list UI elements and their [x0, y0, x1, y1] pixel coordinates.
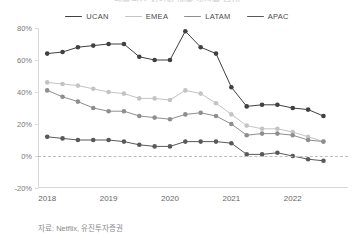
y-tick-mark: [35, 92, 38, 93]
x-axis-label: 2018: [38, 194, 56, 203]
series-line-ucan: [47, 31, 323, 116]
data-point: [275, 151, 280, 156]
data-point: [76, 45, 81, 50]
data-point: [152, 115, 157, 120]
data-point: [106, 109, 111, 114]
netflix-regional-growth-chart: 넷플릭스 지역별 매출 성장률 추이 UCANEMEALATAMAPAC 80%…: [0, 0, 354, 246]
data-point: [229, 112, 234, 117]
data-point: [214, 139, 219, 144]
legend-item-apac[interactable]: APAC: [247, 12, 289, 21]
data-point: [214, 101, 219, 106]
source-note: 자료: Netflix, 유진투자증권: [38, 222, 123, 233]
data-point: [122, 91, 127, 96]
plot-area: 80%60%40%20%0%-20%20182019202020212022: [38, 28, 348, 188]
y-tick-mark: [35, 188, 38, 189]
data-point: [137, 143, 142, 148]
data-point: [321, 114, 326, 119]
legend-item-latam[interactable]: LATAM: [184, 12, 230, 21]
data-point: [152, 144, 157, 149]
data-point: [244, 123, 249, 128]
data-point: [183, 88, 188, 93]
data-point: [260, 103, 265, 108]
data-point: [106, 90, 111, 95]
data-point: [198, 111, 203, 116]
data-point: [198, 91, 203, 96]
data-point: [290, 133, 295, 138]
series-latam: [45, 88, 326, 144]
x-axis-label: 2019: [100, 194, 118, 203]
data-point: [183, 29, 188, 34]
data-point: [275, 131, 280, 136]
data-point: [168, 98, 173, 103]
legend-item-ucan[interactable]: UCAN: [65, 12, 108, 21]
y-axis-label: -20%: [14, 184, 32, 193]
data-point: [91, 87, 96, 92]
data-point: [137, 96, 142, 101]
y-axis-label: 0%: [21, 152, 32, 161]
data-point: [183, 112, 188, 117]
data-point: [290, 106, 295, 111]
data-point: [229, 122, 234, 127]
chart-title: 넷플릭스 지역별 매출 성장률 추이: [0, 0, 354, 2]
data-point: [198, 139, 203, 144]
data-point: [91, 106, 96, 111]
data-point: [45, 88, 50, 93]
data-point: [137, 114, 142, 119]
data-point: [137, 55, 142, 60]
legend-swatch-apac: [247, 16, 264, 18]
data-point: [306, 157, 311, 162]
x-axis-label: 2022: [284, 194, 302, 203]
data-point: [45, 51, 50, 56]
data-point: [244, 133, 249, 138]
x-axis-label: 2020: [161, 194, 179, 203]
data-point: [76, 138, 81, 143]
data-point: [106, 138, 111, 143]
data-point: [168, 117, 173, 122]
y-axis-label: 80%: [17, 24, 32, 33]
data-point: [45, 135, 50, 140]
data-point: [244, 104, 249, 109]
data-point: [122, 42, 127, 47]
data-point: [306, 138, 311, 143]
data-point: [229, 141, 234, 146]
data-point: [198, 45, 203, 50]
legend-swatch-ucan: [65, 16, 82, 18]
series-apac: [45, 135, 326, 164]
data-point: [60, 136, 65, 141]
data-point: [214, 114, 219, 119]
data-point: [106, 42, 111, 47]
data-point: [60, 82, 65, 87]
data-point: [183, 139, 188, 144]
data-point: [122, 139, 127, 144]
y-tick-mark: [35, 60, 38, 61]
legend-swatch-latam: [184, 16, 201, 18]
data-point: [306, 107, 311, 112]
data-point: [122, 109, 127, 114]
data-point: [321, 159, 326, 164]
data-point: [168, 144, 173, 149]
data-point: [91, 43, 96, 48]
data-point: [45, 80, 50, 85]
data-point: [60, 95, 65, 100]
data-point: [168, 58, 173, 63]
legend-item-emea[interactable]: EMEA: [125, 12, 168, 21]
y-tick-mark: [35, 28, 38, 29]
data-point: [91, 138, 96, 143]
legend-label-ucan: UCAN: [86, 12, 108, 21]
data-point: [275, 127, 280, 132]
legend-label-latam: LATAM: [205, 12, 230, 21]
y-tick-mark: [35, 124, 38, 125]
data-point: [214, 51, 219, 56]
data-point: [275, 103, 280, 108]
y-axis-label: 40%: [17, 88, 32, 97]
data-point: [229, 85, 234, 90]
data-point: [152, 96, 157, 101]
data-point: [60, 50, 65, 55]
y-axis-label: 60%: [17, 56, 32, 65]
y-axis-label: 20%: [17, 120, 32, 129]
legend-label-emea: EMEA: [146, 12, 168, 21]
zero-reference-line: [38, 156, 348, 157]
data-point: [321, 139, 326, 144]
chart-legend: UCANEMEALATAMAPAC: [0, 12, 354, 21]
x-axis-label: 2021: [222, 194, 240, 203]
